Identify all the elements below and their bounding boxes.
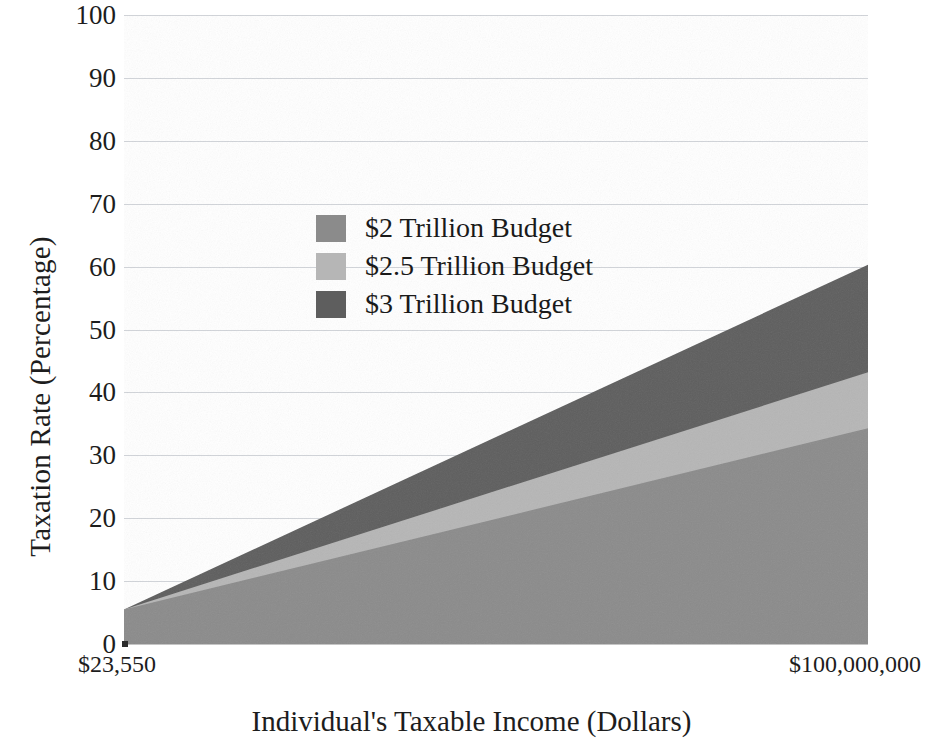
legend-item[interactable]: $3 Trillion Budget bbox=[316, 285, 593, 323]
plot-area bbox=[124, 15, 868, 644]
y-axis-tick-label: 80 bbox=[38, 128, 116, 155]
y-axis-tick-label: 40 bbox=[38, 379, 116, 406]
y-axis-tick-label: 50 bbox=[38, 317, 116, 344]
chart-legend: $2 Trillion Budget$2.5 Trillion Budget$3… bbox=[316, 209, 593, 323]
y-axis-tick-label: 30 bbox=[38, 442, 116, 469]
y-axis-tick-label: 20 bbox=[38, 505, 116, 532]
legend-label: $2 Trillion Budget bbox=[365, 214, 572, 242]
legend-item[interactable]: $2 Trillion Budget bbox=[316, 209, 593, 247]
y-axis-tick-label: 70 bbox=[38, 191, 116, 218]
y-axis-tick-label: 100 bbox=[38, 2, 116, 29]
legend-color-swatch bbox=[316, 291, 346, 318]
y-axis-tick-label: 90 bbox=[38, 65, 116, 92]
legend-color-swatch bbox=[316, 253, 346, 280]
x-axis-title: Individual's Taxable Income (Dollars) bbox=[0, 706, 943, 736]
legend-item[interactable]: $2.5 Trillion Budget bbox=[316, 247, 593, 285]
area-series-group bbox=[124, 15, 868, 644]
y-axis-tick-label: 10 bbox=[38, 568, 116, 595]
legend-label: $2.5 Trillion Budget bbox=[365, 252, 593, 280]
gridline bbox=[124, 644, 868, 645]
y-axis-tick-labels: 1009080706050403020100 bbox=[38, 0, 116, 748]
x-axis-tick-label-left: $23,550 bbox=[78, 652, 156, 676]
legend-color-swatch bbox=[316, 215, 346, 242]
legend-label: $3 Trillion Budget bbox=[365, 290, 572, 318]
origin-tick-mark bbox=[122, 641, 128, 647]
chart-figure: Taxation Rate (Percentage) 1009080706050… bbox=[0, 0, 943, 748]
y-axis-tick-label: 60 bbox=[38, 254, 116, 281]
x-axis-tick-label-right: $100,000,000 bbox=[789, 652, 921, 676]
